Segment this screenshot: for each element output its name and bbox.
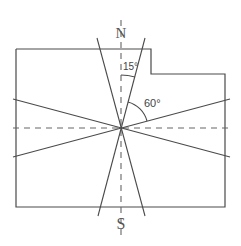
angle-arc-15 [121,75,135,77]
orientation-diagram: N S 15° 60° [0,0,241,246]
south-label: S [117,215,126,232]
angle-label-15: 15° [123,61,138,72]
north-label: N [116,25,127,41]
angle-label-60: 60° [144,97,161,109]
